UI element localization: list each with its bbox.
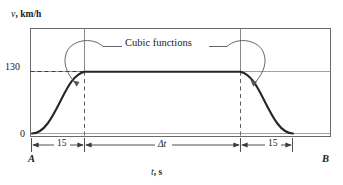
x-axis-unit: , s bbox=[154, 167, 162, 177]
figure-container: v, km/h t, s 130 0 Cubic functions 15 Δt… bbox=[0, 0, 343, 185]
y-axis-label: v, km/h bbox=[11, 9, 41, 20]
callout-arrow-left-icon bbox=[73, 81, 79, 87]
callout-loop-right bbox=[227, 41, 265, 84]
annotation-cubic-functions: Cubic functions bbox=[125, 38, 192, 49]
dim-arrow-right-start-icon bbox=[241, 143, 247, 148]
dim-arrow-left-start-icon bbox=[32, 143, 38, 148]
callout-loop-left bbox=[65, 41, 103, 84]
dim-arrow-mid-end-icon bbox=[233, 143, 239, 148]
x-axis-label: t, s bbox=[151, 167, 162, 178]
endpoint-label-a: A bbox=[28, 154, 35, 165]
y-tick-label-130: 130 bbox=[5, 62, 20, 72]
dimension-label-left: 15 bbox=[57, 139, 67, 149]
dim-arrow-mid-start-icon bbox=[85, 143, 91, 148]
dim-arrow-right-end-icon bbox=[285, 143, 291, 148]
dim-arrow-left-end-icon bbox=[77, 143, 83, 148]
endpoint-label-b: B bbox=[322, 154, 329, 165]
dimension-label-right: 15 bbox=[268, 139, 278, 149]
dimension-label-middle: Δt bbox=[158, 140, 166, 150]
y-tick-label-0: 0 bbox=[20, 129, 25, 139]
velocity-curve bbox=[32, 72, 293, 134]
velocity-time-chart bbox=[0, 0, 343, 185]
y-axis-unit: , km/h bbox=[15, 9, 41, 19]
